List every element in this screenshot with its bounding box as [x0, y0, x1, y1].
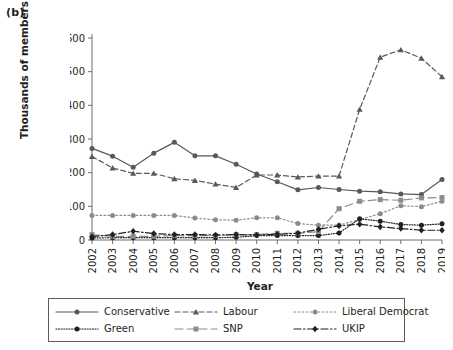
legend-row: Green SNP UKIP: [55, 320, 398, 337]
data-point: [378, 211, 383, 216]
data-point: [254, 215, 259, 220]
legend-swatch-snp: [174, 322, 218, 336]
data-point: [131, 234, 136, 239]
data-point: [192, 153, 197, 158]
data-point: [398, 203, 403, 208]
data-point: [109, 165, 115, 170]
data-point: [336, 223, 342, 230]
data-point: [172, 140, 177, 145]
legend-marker: [75, 326, 80, 331]
x-tick-label: 2006: [169, 248, 180, 273]
data-point: [398, 47, 404, 52]
data-point: [377, 54, 383, 59]
legend-label-libdem: Liberal Democrat: [342, 306, 428, 317]
data-point: [295, 221, 300, 226]
legend-swatch-green: [55, 322, 99, 336]
data-point: [89, 154, 95, 159]
chart-panel: (b) Thousands of members Year 0100200300…: [0, 0, 453, 350]
data-point: [131, 165, 136, 170]
data-point: [213, 153, 218, 158]
data-point: [234, 162, 239, 167]
plot-area: 0100200300400500600200220032004200520062…: [70, 30, 445, 240]
series-group: [89, 47, 445, 241]
line-chart-svg: 0100200300400500600200220032004200520062…: [70, 30, 445, 280]
data-point: [357, 221, 363, 228]
x-tick-label: 2009: [231, 248, 242, 273]
data-point: [439, 227, 445, 234]
legend-marker: [194, 326, 199, 331]
data-point: [398, 225, 404, 232]
x-tick-label: 2008: [210, 248, 221, 273]
data-point: [316, 185, 321, 190]
data-point: [419, 195, 424, 200]
legend-label-snp: SNP: [223, 323, 243, 334]
series-line-libdem: [92, 201, 442, 225]
x-tick-label: 2005: [148, 248, 159, 273]
data-point: [337, 230, 342, 235]
data-point: [440, 177, 445, 182]
data-point: [357, 106, 363, 111]
chart-legend: Conservative Labour Liberal Democrat Gre…: [48, 298, 405, 342]
data-point: [378, 197, 383, 202]
x-tick-label: 2017: [395, 248, 406, 273]
legend-swatch-libdem: [293, 305, 337, 319]
data-point: [440, 221, 445, 226]
series-line-conservative: [92, 142, 442, 194]
data-point: [192, 216, 197, 221]
legend-swatch-conservative: [55, 305, 99, 319]
legend-marker: [75, 309, 80, 314]
legend-swatch-ukip: [293, 322, 337, 336]
legend-marker: [312, 325, 318, 332]
data-point: [110, 154, 115, 159]
data-point: [90, 146, 95, 151]
x-tick-label: 2011: [272, 248, 283, 273]
y-tick-label: 300: [70, 134, 85, 145]
x-tick-label: 2014: [334, 248, 345, 273]
legend-item-labour[interactable]: Labour: [174, 305, 293, 319]
data-point: [418, 55, 424, 60]
legend-label-ukip: UKIP: [342, 323, 365, 334]
data-point: [357, 216, 362, 221]
data-point: [151, 151, 156, 156]
legend-label-labour: Labour: [223, 306, 258, 317]
data-point: [357, 189, 362, 194]
legend-item-snp[interactable]: SNP: [174, 322, 293, 336]
data-point: [90, 213, 95, 218]
data-point: [419, 204, 424, 209]
x-tick-label: 2016: [375, 248, 386, 273]
data-point: [378, 189, 383, 194]
x-tick-label: 2012: [292, 248, 303, 273]
y-tick-label: 200: [70, 167, 85, 178]
data-point: [440, 195, 445, 200]
series-labour: [89, 47, 445, 190]
data-point: [213, 217, 218, 222]
series-line-labour: [92, 50, 442, 188]
legend-row: Conservative Labour Liberal Democrat: [55, 303, 398, 320]
legend-item-green[interactable]: Green: [55, 322, 174, 336]
y-tick-label: 500: [70, 66, 85, 77]
y-tick-label: 400: [70, 100, 85, 111]
legend-item-libdem[interactable]: Liberal Democrat: [293, 305, 428, 319]
data-point: [377, 224, 383, 231]
legend-item-ukip[interactable]: UKIP: [293, 322, 412, 336]
data-point: [151, 213, 156, 218]
legend-item-conservative[interactable]: Conservative: [55, 305, 174, 319]
series-line-snp: [92, 198, 442, 237]
x-tick-label: 2015: [354, 248, 365, 273]
x-tick-label: 2010: [251, 248, 262, 273]
data-point: [275, 215, 280, 220]
x-tick-label: 2013: [313, 248, 324, 273]
legend-swatch-labour: [174, 305, 218, 319]
y-tick-label: 0: [79, 235, 85, 246]
data-point: [357, 199, 362, 204]
series-line-ukip: [92, 224, 442, 236]
y-axis-label: Thousands of members: [18, 0, 30, 150]
data-point: [275, 179, 280, 184]
x-tick-label: 2004: [128, 248, 139, 273]
y-tick-label: 100: [70, 201, 85, 212]
series-conservative: [90, 140, 445, 197]
x-tick-label: 2003: [107, 248, 118, 273]
legend-marker: [313, 309, 318, 314]
data-point: [419, 227, 425, 234]
data-point: [398, 191, 403, 196]
